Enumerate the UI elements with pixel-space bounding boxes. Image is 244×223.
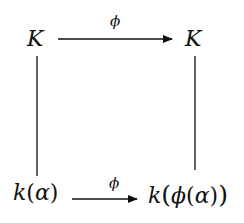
node-bottom-right: k(ϕ(α)) bbox=[148, 182, 228, 207]
paren-open: ( bbox=[26, 180, 35, 205]
node-top-right: K bbox=[185, 28, 201, 50]
arg-alpha: α bbox=[195, 183, 210, 208]
inner-paren-close: ) bbox=[210, 183, 219, 208]
paren-close: ) bbox=[218, 180, 228, 209]
arg-alpha: α bbox=[35, 180, 50, 205]
paren-close: ) bbox=[50, 180, 59, 205]
inner-paren-open: ( bbox=[186, 183, 195, 208]
node-top-left: K bbox=[27, 28, 43, 50]
fn-k: k bbox=[13, 180, 26, 205]
fn-phi: ϕ bbox=[171, 183, 186, 208]
top-arrow-label: ϕ bbox=[110, 14, 120, 29]
paren-open: ( bbox=[161, 180, 171, 209]
fn-k: k bbox=[148, 183, 161, 208]
node-bottom-left: k(α) bbox=[13, 182, 58, 204]
bottom-arrow-label: ϕ bbox=[109, 176, 119, 191]
